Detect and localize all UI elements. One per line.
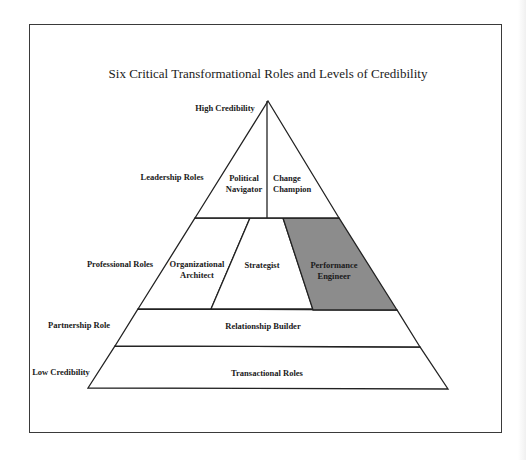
role-change-champion-line1: Change [273, 173, 301, 183]
label-leadership-roles: Leadership Roles [140, 172, 204, 182]
label-low-credibility: Low Credibility [32, 367, 90, 377]
role-change-champion-line2: Champion [273, 184, 312, 194]
role-performance-engineer-line2: Engineer [317, 271, 350, 281]
role-political-navigator-line2: Navigator [226, 184, 263, 194]
label-high-credibility: High Credibility [195, 103, 255, 113]
role-organizational-architect-line2: Architect [180, 270, 214, 280]
credibility-pyramid: Six Critical Transformational Roles and … [0, 0, 526, 460]
role-transactional: Transactional Roles [231, 368, 304, 378]
role-relationship-builder: Relationship Builder [225, 321, 301, 331]
role-performance-engineer-line1: Performance [310, 260, 357, 270]
label-professional-roles: Professional Roles [87, 259, 154, 269]
role-organizational-architect-line1: Organizational [170, 259, 225, 269]
label-partnership-role: Partnership Role [48, 320, 110, 330]
role-political-navigator-line1: Political [229, 173, 259, 183]
figure-title: Six Critical Transformational Roles and … [109, 66, 428, 81]
role-strategist: Strategist [245, 260, 280, 270]
